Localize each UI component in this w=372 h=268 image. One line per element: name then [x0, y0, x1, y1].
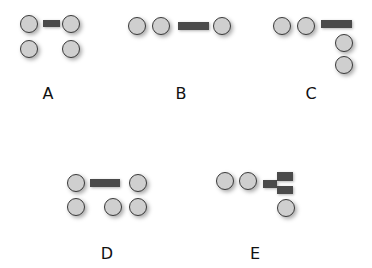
connector-bar [321, 20, 352, 28]
option-label: B [171, 84, 191, 103]
connector-bar [277, 172, 293, 181]
circle [335, 56, 353, 74]
circle [128, 17, 146, 35]
circle [273, 17, 291, 35]
circle [20, 40, 38, 58]
connector-bar [90, 179, 120, 187]
circle [67, 198, 85, 216]
circle [277, 199, 295, 217]
circle [20, 15, 38, 33]
connector-bar [277, 186, 293, 194]
option-label: C [301, 84, 321, 103]
circle [62, 40, 80, 58]
connector-bar [263, 180, 277, 188]
circle [62, 15, 80, 33]
connector-bar [43, 20, 60, 27]
circle [104, 198, 122, 216]
circle [67, 174, 85, 192]
circle [297, 17, 315, 35]
option-label: E [245, 244, 265, 263]
circle [129, 198, 147, 216]
circle [152, 17, 170, 35]
circle [239, 172, 257, 190]
option-label: A [38, 84, 58, 103]
circle [129, 174, 147, 192]
option-label: D [97, 244, 117, 263]
connector-bar [178, 22, 209, 30]
circle [216, 172, 234, 190]
circle [213, 17, 231, 35]
circle [335, 34, 353, 52]
